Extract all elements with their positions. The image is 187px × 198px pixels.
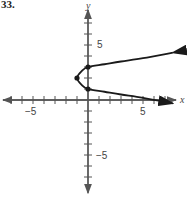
y-axis — [84, 10, 92, 193]
x-tick-label-5: 5 — [140, 106, 146, 117]
marked-point — [85, 64, 90, 69]
marked-point — [74, 75, 79, 80]
graph: x y −5 5 5 −5 — [0, 0, 187, 198]
y-tick-label-neg5: −5 — [96, 150, 108, 161]
x-axis-label: x — [179, 94, 185, 105]
x-tick-label-neg5: −5 — [25, 106, 37, 117]
y-axis-label: y — [85, 0, 91, 11]
marked-point — [85, 86, 90, 91]
x-axis — [3, 96, 176, 104]
y-tick-label-5: 5 — [97, 39, 103, 50]
